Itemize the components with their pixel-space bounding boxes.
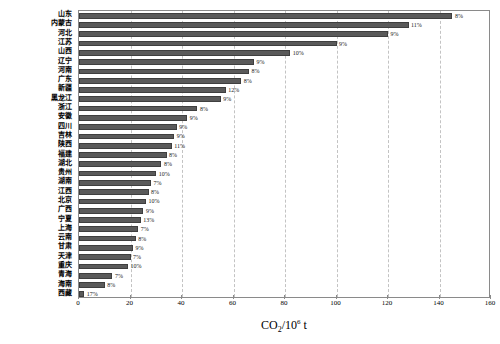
bar-row: 9% [79,41,489,47]
bar [79,41,337,47]
bar-row: 9% [79,124,489,130]
tick-label: 0 [76,299,80,307]
bar [79,273,112,279]
category-label: 河南 [58,67,72,74]
category-label: 甘肃 [58,243,72,250]
bar-row: 12% [79,87,489,93]
bar-value-label: 9% [133,245,144,251]
bar-row: 7% [79,180,489,186]
bar-rows: 8%11%9%9%10%9%8%8%12%9%8%9%9%9%11%8%8%10… [79,11,489,297]
bar-value-label: 9% [143,208,154,214]
bar-value-label: 7% [151,180,162,186]
bar-value-label: 10% [290,50,304,56]
category-label: 湖南 [58,178,72,185]
bar-value-label: 8% [241,78,252,84]
bar [79,264,128,270]
bar [79,134,174,140]
category-label: 安徽 [58,113,72,120]
bar [79,96,221,102]
category-label: 重庆 [58,262,72,269]
bar [79,31,388,37]
bar-row: 8% [79,236,489,242]
bar-value-label: 8% [197,106,208,112]
category-label: 海南 [58,281,72,288]
bar [79,226,138,232]
bar [79,115,187,121]
bar-row: 10% [79,50,489,56]
category-axis-labels: 山东内蒙古河北江苏山西辽宁河南广东新疆黑龙江浙江安徽四川吉林陕西福建湖北贵州湖南… [0,10,75,298]
bar-row: 9% [79,59,489,65]
bar-row: 10% [79,264,489,270]
bar-row: 8% [79,78,489,84]
bar-row: 7% [79,226,489,232]
bar-value-label: 11% [409,22,422,28]
bar-row: 7% [79,273,489,279]
category-label: 黑龙江 [51,95,72,102]
category-label: 湖北 [58,160,72,167]
bar-value-label: 10% [128,263,142,269]
category-label: 云南 [58,234,72,241]
bar-value-label: 17% [84,291,98,297]
bar-value-label: 9% [337,41,348,47]
bar-row: 9% [79,115,489,121]
bar-row: 10% [79,171,489,177]
category-label: 福建 [58,151,72,158]
bar [79,22,409,28]
category-label: 吉林 [58,132,72,139]
bar-value-label: 9% [187,115,198,121]
category-label: 江苏 [58,39,72,46]
bar-value-label: 8% [136,236,147,242]
category-label: 广东 [58,76,72,83]
bar-row: 8% [79,13,489,19]
bar-row: 8% [79,189,489,195]
tick-label: 40 [178,299,185,307]
bar-value-label: 8% [161,161,172,167]
tick-label: 160 [485,299,496,307]
bar-value-label: 9% [254,59,265,65]
bar-row: 9% [79,245,489,251]
bar-value-label: 7% [138,226,149,232]
bar-value-label: 11% [172,143,185,149]
bar-value-label: 12% [226,87,240,93]
tick-label: 20 [126,299,133,307]
category-label: 贵州 [58,169,72,176]
bar [79,245,133,251]
bar [79,124,177,130]
category-label: 山东 [58,11,72,18]
chart-figure: 8%11%9%9%10%9%8%8%12%9%8%9%9%9%11%8%8%10… [0,0,500,344]
category-label: 青海 [58,271,72,278]
bar-value-label: 9% [388,31,399,37]
tick-label: 140 [433,299,444,307]
bar [79,69,249,75]
bar-row: 9% [79,96,489,102]
category-label: 新疆 [58,85,72,92]
bar-row: 9% [79,31,489,37]
bar [79,254,131,260]
x-axis-title-main: CO [261,318,278,332]
tick-label: 60 [229,299,236,307]
category-label: 宁夏 [58,216,72,223]
category-label: 上海 [58,225,72,232]
bar-row: 10% [79,199,489,205]
bar-row: 8% [79,282,489,288]
category-label: 辽宁 [58,58,72,65]
bar-row: 8% [79,152,489,158]
value-axis-ticks: 020406080100120140160 [78,299,490,313]
bar-value-label: 9% [221,96,232,102]
bar [79,152,167,158]
x-axis-title: CO2/106 t [78,318,490,334]
bar [79,199,146,205]
category-label: 西藏 [58,290,72,297]
category-label: 天津 [58,253,72,260]
bar [79,161,161,167]
bar-value-label: 8% [105,282,116,288]
tick-label: 80 [281,299,288,307]
bar-row: 11% [79,22,489,28]
bar [79,208,143,214]
category-label: 广西 [58,206,72,213]
bar-value-label: 9% [177,124,188,130]
bar-row: 9% [79,134,489,140]
category-label: 江西 [58,188,72,195]
x-axis-title-slash: /10 [282,318,297,332]
bar-value-label: 9% [174,133,185,139]
